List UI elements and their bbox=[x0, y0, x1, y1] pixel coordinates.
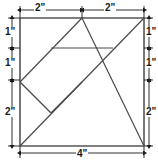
dimension-label-right-2: 1" bbox=[145, 58, 157, 68]
tangram-cut-lines bbox=[20, 18, 144, 146]
diagonal-topmid-to-leftmid bbox=[20, 18, 82, 82]
dimension-label-left-3: 2" bbox=[4, 107, 16, 117]
segment-leftmid-to-lowervertex bbox=[20, 82, 51, 113]
dimension-label-bottom: 4" bbox=[76, 149, 88, 159]
dimension-label-left-2: 1" bbox=[4, 58, 16, 68]
dimension-label-top-right: 2" bbox=[104, 3, 116, 13]
dimension-label-top-left: 2" bbox=[34, 3, 46, 13]
dimension-label-right-1: 1" bbox=[145, 27, 157, 37]
tangram-diagram: 2" 2" 1" 1" 2" 1" 1" 2" 4" bbox=[0, 0, 158, 162]
diagonal-topmid-to-bottomright bbox=[82, 18, 144, 146]
tangram-figure bbox=[0, 0, 158, 162]
dimension-label-right-3: 2" bbox=[145, 107, 157, 117]
dimension-label-left-1: 1" bbox=[4, 27, 16, 37]
left-dimension-lines bbox=[8, 18, 20, 146]
right-dimension-lines bbox=[144, 18, 153, 146]
segment-lowervertex-to-center bbox=[51, 82, 82, 113]
